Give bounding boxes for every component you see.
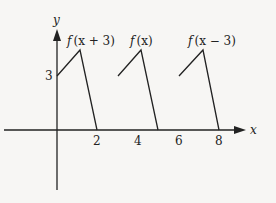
curve-f-x bbox=[118, 50, 158, 130]
curve-f-x-minus-3 bbox=[179, 50, 219, 130]
label-f-x-minus-3: f(x − 3) bbox=[187, 34, 236, 48]
graph: x y 2 4 6 8 3 f(x + 3) f(x) f(x − 3) bbox=[0, 0, 276, 203]
x-tick-6: 6 bbox=[175, 134, 183, 148]
y-axis-label: y bbox=[52, 13, 60, 27]
x-tick-4: 4 bbox=[134, 134, 142, 148]
label-f-x: f(x) bbox=[129, 34, 153, 48]
curve-f-x-plus-3 bbox=[57, 50, 97, 130]
x-axis-arrow-icon bbox=[234, 126, 246, 134]
y-tick-3: 3 bbox=[45, 69, 53, 83]
y-axis-arrow-icon bbox=[53, 29, 61, 41]
x-tick-2: 2 bbox=[93, 134, 101, 148]
x-tick-8: 8 bbox=[215, 134, 223, 148]
label-f-x-plus-3: f(x + 3) bbox=[66, 34, 115, 48]
x-axis-label: x bbox=[250, 123, 257, 137]
